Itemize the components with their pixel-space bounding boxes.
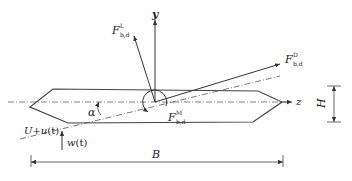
deck-section	[30, 89, 282, 123]
svg-text:b,d: b,d	[176, 118, 186, 125]
svg-text:F: F	[284, 53, 293, 66]
height-dimension-label: H	[315, 98, 328, 109]
y-axis-label: y	[151, 8, 160, 21]
drag-force-label: F D b,d	[284, 51, 303, 67]
svg-text:F: F	[111, 24, 120, 37]
svg-text:M: M	[176, 109, 182, 116]
svg-text:w(t): w(t)	[67, 137, 87, 148]
z-axis-label: z	[295, 96, 302, 107]
svg-text:F: F	[167, 111, 176, 124]
lift-force-arrow	[134, 36, 155, 102]
angle-alpha-label: α	[88, 106, 96, 119]
width-dimension-label: B	[151, 148, 160, 161]
drag-force-arrow	[155, 64, 280, 102]
vertical-wind-label: w(t)	[67, 137, 87, 148]
svg-text:b,d: b,d	[293, 60, 303, 67]
svg-text:L: L	[120, 22, 124, 29]
svg-text:U+u(t): U+u(t)	[24, 125, 59, 136]
moment-label: F M b,d	[167, 109, 186, 125]
svg-text:b,d: b,d	[120, 31, 130, 38]
svg-text:D: D	[293, 51, 298, 58]
lift-force-label: F L b,d	[111, 22, 130, 38]
horizontal-wind-label: U+u(t)	[24, 125, 59, 136]
deck-diagram: z y F L b,d F D b,d F M b,d α U+u(t) w(t…	[0, 0, 352, 181]
angle-alpha-arc	[98, 102, 101, 115]
